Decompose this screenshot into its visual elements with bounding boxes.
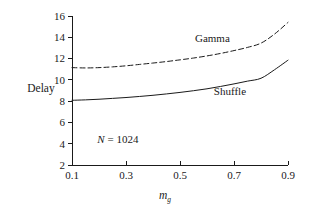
- x-tick-label: 0.7: [227, 169, 241, 181]
- annotation-n-value: N = 1024: [96, 133, 139, 145]
- x-tick-label: 0.5: [173, 169, 187, 181]
- y-tick-label: 4: [60, 138, 66, 150]
- series-label-gamma: Gamma: [195, 32, 230, 44]
- series-curve-shuffle: [72, 60, 288, 100]
- y-tick-label: 10: [54, 74, 66, 86]
- x-axis-title-base: m: [159, 189, 167, 201]
- y-tick-label: 8: [60, 95, 66, 107]
- series-label-shuffle: Shuffle: [214, 85, 246, 97]
- delay-vs-mg-line-chart: 2468101214160.10.30.50.70.9GammaShuffleD…: [0, 0, 309, 211]
- y-tick-label: 14: [54, 31, 66, 43]
- y-axis-title: Delay: [27, 82, 55, 95]
- text-labels: 2468101214160.10.30.50.70.9GammaShuffleD…: [27, 10, 295, 204]
- y-tick-label: 16: [54, 10, 66, 22]
- x-axis-title: mg: [159, 189, 171, 204]
- data-series: [72, 22, 288, 100]
- x-tick-label: 0.1: [65, 169, 79, 181]
- y-tick-label: 6: [60, 116, 66, 128]
- series-curve-gamma: [72, 22, 288, 68]
- x-tick-label: 0.3: [119, 169, 133, 181]
- chart-figure: 2468101214160.10.30.50.70.9GammaShuffleD…: [0, 0, 309, 211]
- annotation-value: = 1024: [105, 133, 139, 145]
- y-tick-label: 12: [54, 52, 65, 64]
- x-axis-title-subscript: g: [167, 195, 171, 204]
- x-tick-label: 0.9: [281, 169, 295, 181]
